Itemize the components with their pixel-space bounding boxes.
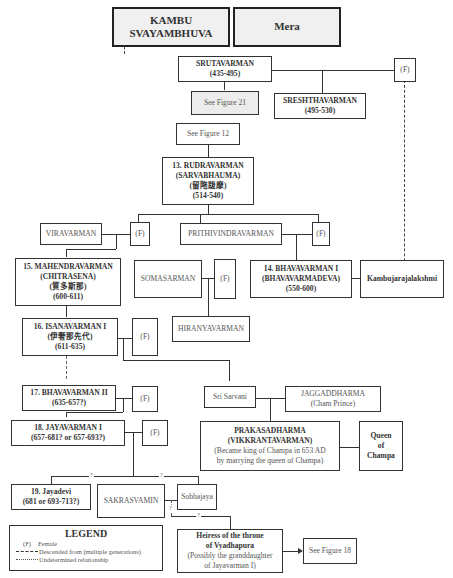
node-jaggaddharma: JAGGADDHARMA (Cham Prince) — [285, 386, 381, 412]
descent-line — [198, 476, 199, 484]
node-note: by marrying the queen of Champa) — [217, 456, 324, 466]
link-see-figure-12[interactable]: See Figure 12 — [176, 123, 240, 145]
node-jayadevi: 19. Jayadevi (681 or 693-713?) — [11, 484, 91, 510]
node-prithivindravarman: PRITHIVINDRAVARMAN — [180, 223, 282, 245]
uncertain-mark: ? — [89, 472, 94, 479]
node-name: (F) — [140, 332, 149, 342]
descent-line — [66, 412, 123, 413]
node-dates: (657-681? or 657-693?) — [31, 433, 105, 443]
node-somasarman: SOMASARMAN — [134, 260, 202, 298]
marriage-line — [352, 278, 360, 279]
node-note: (Became king of Champa in 653 AD — [214, 446, 325, 456]
node-name: (F) — [400, 65, 409, 75]
node-isanavarman-i: 16. ISANAVARMAN I (伊奢那先代) (611-635) — [22, 318, 118, 356]
node-dates: (550-600) — [286, 284, 316, 294]
undetermined-line — [66, 356, 67, 379]
descent-line — [66, 412, 67, 417]
node-name: 19. Jayadevi — [31, 487, 71, 497]
node-sreshthavarman: SRESHTHAVARMAN (495-530) — [274, 93, 366, 119]
node-alias: (SARVABHAUMA) — [176, 171, 241, 181]
descent-line — [230, 516, 231, 529]
descent-line — [123, 360, 230, 361]
node-name: (F) — [220, 274, 229, 284]
node-rudravarman: 13. RUDRAVARMAN (SARVABHAUMA) (留陁跋摩) (51… — [162, 157, 254, 205]
node-srutavarman: SRUTAVARMAN (435-495) — [178, 56, 272, 82]
node-name: VIRAVARMAN — [46, 229, 96, 239]
node-name: SRUTAVARMAN — [196, 59, 254, 69]
node-name: SOMASARMAN — [141, 274, 195, 284]
node-name: HIRANYAVARMAN — [178, 324, 244, 334]
legend-label: Undetermined relationship — [39, 556, 109, 563]
node-name: (F) — [135, 229, 144, 239]
node-kambu-svayambhuva: KAMBU SVAYAMBHUVA — [112, 7, 230, 47]
node-jayavarman-i: 18. JAYAVARMAN I (657-681? or 657-693?) — [11, 420, 125, 446]
node-note: (Cham Prince) — [311, 399, 356, 409]
sibling-bar — [66, 249, 116, 250]
node-dates: (611-635) — [55, 342, 85, 352]
node-bhavavarman-ii: 17. BHAVAVARMAN II (635-657?) — [22, 385, 116, 411]
node-name: JAGGADDHARMA — [301, 389, 365, 399]
node-alias: (CHITRASENA) — [40, 272, 96, 282]
descent-line — [208, 145, 209, 157]
dashed-line-symbol — [16, 551, 38, 552]
marriage-line — [282, 234, 312, 235]
node-note: of Jayavarman I) — [204, 561, 255, 571]
node-chinese-name: (伊奢那先代) — [47, 332, 92, 342]
node-kambujarajalakshmi: Kambujarajalakshmi — [360, 260, 444, 298]
uncertain-mark: ? — [168, 505, 173, 512]
node-alias: (BHAVAVARMADEVA) — [262, 274, 340, 284]
node-name: (F) — [150, 428, 159, 438]
node-name: 13. RUDRAVARMAN — [172, 161, 243, 171]
descent-uncertain-line — [51, 476, 199, 477]
uncertain-mark: ? — [196, 512, 201, 519]
descent-line — [208, 278, 209, 316]
node-name: 17. BHAVAVARMAN II — [30, 388, 107, 398]
descent-line — [133, 432, 134, 476]
node-dates: (635-657?) — [52, 398, 86, 408]
node-line: Mera — [274, 20, 300, 33]
node-sri-sarvani: Sri Sarvani — [204, 386, 256, 408]
node-sakrasvamin: SAKRASVAMIN — [97, 484, 165, 518]
node-prakasadharma: PRAKASADHARMA (VIKKRANTAVARMAN) (Became … — [200, 421, 340, 471]
node-alias: (VIKKRANTAVARMAN) — [228, 436, 312, 446]
node-line: of Vyadhapura — [206, 541, 254, 551]
node-line: Queen — [370, 431, 391, 441]
link-see-figure-18[interactable]: See Figure 18 — [303, 538, 357, 564]
node-dates: (681 or 693-713?) — [23, 497, 79, 507]
node-queen-of-champa: Queen of Champa — [359, 421, 403, 471]
descent-line — [200, 214, 201, 223]
descent-line — [322, 70, 323, 94]
legend-label: Descended from (multiple generations) — [39, 548, 141, 555]
dotdash-line-symbol — [16, 559, 38, 560]
link-see-figure-21[interactable]: See Figure 21 — [191, 91, 259, 115]
node-dates: (495-530) — [305, 106, 335, 116]
node-mera: Mera — [233, 7, 341, 47]
legend-item-female: (F) Female — [16, 539, 162, 547]
descent-line — [208, 205, 209, 214]
descent-line — [229, 360, 230, 381]
node-bhavavarman-i: 14. BHAVAVARMAN I (BHAVAVARMADEVA) (550-… — [250, 260, 352, 298]
node-name: SAKRASVAMIN — [104, 496, 159, 506]
node-female: (F) — [394, 58, 416, 82]
node-female: (F) — [142, 420, 168, 446]
node-female: (F) — [132, 318, 158, 356]
node-line: Champa — [367, 451, 395, 461]
node-hiranyavarman: HIRANYAVARMAN — [172, 316, 250, 342]
node-name: PRITHIVINDRAVARMAN — [188, 229, 274, 239]
node-dates: (600-611) — [53, 292, 83, 302]
node-name: 18. JAYAVARMAN I — [34, 423, 102, 433]
node-line: of — [378, 441, 384, 451]
node-name: 14. BHAVAVARMAN I — [264, 264, 338, 274]
descent-line — [51, 476, 52, 484]
descent-line — [270, 398, 271, 421]
uncertain-mark: ? — [159, 472, 164, 479]
node-line: KAMBU — [150, 14, 192, 27]
legend-item-descended: Descended from (multiple generations) — [16, 547, 162, 555]
legend-title: LEGEND — [10, 528, 162, 539]
node-note: (Possibly the granddaughter — [187, 551, 272, 561]
node-name: See Figure 12 — [187, 129, 229, 139]
node-sobhajaya: Sobhajaya — [177, 484, 217, 510]
node-female: (F) — [312, 222, 330, 246]
node-name: Sobhajaya — [181, 492, 213, 502]
legend-label: Female — [38, 540, 57, 547]
